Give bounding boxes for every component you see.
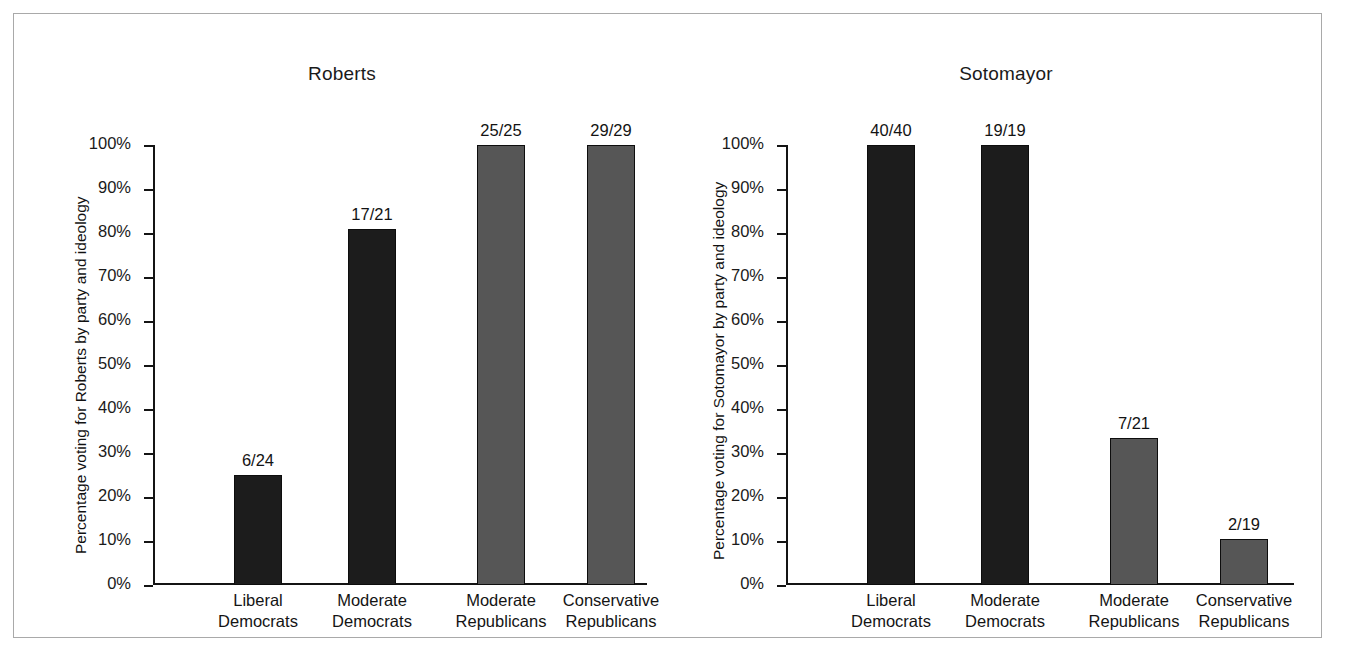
y-tick-40: 40% bbox=[777, 409, 786, 411]
bar-7-of-21[interactable] bbox=[1110, 438, 1158, 585]
x-category-line2: Republicans bbox=[437, 611, 565, 632]
x-category-line2: Republicans bbox=[1070, 611, 1198, 632]
y-tick-label: 30% bbox=[98, 442, 131, 461]
x-category-line1: Liberal bbox=[827, 590, 955, 611]
y-tick-label: 20% bbox=[731, 486, 764, 505]
bar-slot: 19/19 bbox=[931, 145, 1045, 585]
bar-value-label: 2/19 bbox=[1220, 515, 1268, 534]
figure-frame: Roberts Percentage voting for Roberts by… bbox=[13, 13, 1322, 638]
x-category-line1: Conservative bbox=[1180, 590, 1308, 611]
x-category-label: ModerateDemocrats bbox=[941, 590, 1069, 632]
bars-sotomayor: 40/4019/197/212/19 bbox=[788, 145, 1280, 585]
bar-slot: 25/25 bbox=[427, 145, 541, 585]
y-tick-10: 10% bbox=[144, 541, 153, 543]
x-category-line2: Democrats bbox=[194, 611, 322, 632]
y-tick-label: 50% bbox=[731, 354, 764, 373]
y-tick-label: 90% bbox=[98, 178, 131, 197]
x-category-line2: Republicans bbox=[1180, 611, 1308, 632]
y-tick-20: 20% bbox=[777, 497, 786, 499]
y-tick-100: 100% bbox=[777, 145, 786, 147]
y-tick-0: 0% bbox=[144, 585, 153, 587]
y-tick-label: 20% bbox=[98, 486, 131, 505]
x-category-label: ConservativeRepublicans bbox=[547, 590, 675, 632]
y-tick-20: 20% bbox=[144, 497, 153, 499]
x-category-line1: Moderate bbox=[437, 590, 565, 611]
x-category-line1: Conservative bbox=[547, 590, 675, 611]
y-tick-label: 10% bbox=[98, 530, 131, 549]
x-category-label: LiberalDemocrats bbox=[194, 590, 322, 632]
y-tick-10: 10% bbox=[777, 541, 786, 543]
y-tick-0: 0% bbox=[777, 585, 786, 587]
y-tick-label: 40% bbox=[731, 398, 764, 417]
x-category-line2: Democrats bbox=[308, 611, 436, 632]
bar-slot: 29/29 bbox=[537, 145, 651, 585]
y-tick-70: 70% bbox=[144, 277, 153, 279]
bar-value-label: 40/40 bbox=[867, 121, 915, 140]
bars-roberts: 6/2417/2125/2529/29 bbox=[155, 145, 647, 585]
x-category-line1: Moderate bbox=[941, 590, 1069, 611]
bar-2-of-19[interactable] bbox=[1220, 539, 1268, 585]
bar-slot: 7/21 bbox=[1060, 145, 1174, 585]
x-category-line2: Democrats bbox=[941, 611, 1069, 632]
bar-40-of-40[interactable] bbox=[867, 145, 915, 585]
chart-panel-sotomayor: Sotomayor Percentage voting for Sotomayo… bbox=[668, 14, 1322, 639]
bar-value-label: 29/29 bbox=[587, 121, 635, 140]
bar-19-of-19[interactable] bbox=[981, 145, 1029, 585]
bar-slot: 2/19 bbox=[1170, 145, 1284, 585]
chart-title-sotomayor: Sotomayor bbox=[746, 63, 1266, 85]
y-tick-80: 80% bbox=[144, 233, 153, 235]
bar-value-label: 25/25 bbox=[477, 121, 525, 140]
x-category-line1: Liberal bbox=[194, 590, 322, 611]
y-tick-label: 60% bbox=[98, 310, 131, 329]
y-tick-90: 90% bbox=[144, 189, 153, 191]
bar-17-of-21[interactable] bbox=[348, 229, 396, 585]
x-category-label: ModerateRepublicans bbox=[437, 590, 565, 632]
x-category-line1: Moderate bbox=[1070, 590, 1198, 611]
y-tick-70: 70% bbox=[777, 277, 786, 279]
y-tick-80: 80% bbox=[777, 233, 786, 235]
y-tick-30: 30% bbox=[777, 453, 786, 455]
bar-value-label: 19/19 bbox=[981, 121, 1029, 140]
y-tick-label: 30% bbox=[731, 442, 764, 461]
y-tick-30: 30% bbox=[144, 453, 153, 455]
y-tick-label: 100% bbox=[89, 134, 131, 153]
bar-value-label: 6/24 bbox=[234, 451, 282, 470]
y-tick-label: 0% bbox=[107, 574, 131, 593]
y-tick-label: 50% bbox=[98, 354, 131, 373]
bar-slot: 6/24 bbox=[184, 145, 298, 585]
y-axis-title-sotomayor: Percentage voting for Sotomayor by party… bbox=[710, 182, 728, 560]
y-tick-60: 60% bbox=[144, 321, 153, 323]
bar-25-of-25[interactable] bbox=[477, 145, 525, 585]
y-tick-label: 0% bbox=[740, 574, 764, 593]
y-tick-90: 90% bbox=[777, 189, 786, 191]
x-category-label: ConservativeRepublicans bbox=[1180, 590, 1308, 632]
y-tick-60: 60% bbox=[777, 321, 786, 323]
bar-slot: 40/40 bbox=[817, 145, 931, 585]
y-tick-label: 100% bbox=[722, 134, 764, 153]
x-category-line1: Moderate bbox=[308, 590, 436, 611]
y-tick-50: 50% bbox=[777, 365, 786, 367]
plot-area-sotomayor: 100%90%80%70%60%50%40%30%20%10%0% 40/401… bbox=[786, 132, 1286, 585]
y-tick-label: 80% bbox=[98, 222, 131, 241]
bar-6-of-24[interactable] bbox=[234, 475, 282, 585]
bar-29-of-29[interactable] bbox=[587, 145, 635, 585]
bar-value-label: 7/21 bbox=[1110, 414, 1158, 433]
x-category-label: LiberalDemocrats bbox=[827, 590, 955, 632]
y-tick-50: 50% bbox=[144, 365, 153, 367]
y-tick-100: 100% bbox=[144, 145, 153, 147]
y-tick-label: 70% bbox=[98, 266, 131, 285]
chart-title-roberts: Roberts bbox=[82, 63, 602, 85]
y-tick-label: 70% bbox=[731, 266, 764, 285]
bar-slot: 17/21 bbox=[298, 145, 412, 585]
x-category-label: ModerateRepublicans bbox=[1070, 590, 1198, 632]
y-tick-label: 80% bbox=[731, 222, 764, 241]
y-tick-label: 40% bbox=[98, 398, 131, 417]
plot-area-roberts: 100%90%80%70%60%50%40%30%20%10%0% 6/2417… bbox=[153, 132, 647, 585]
y-tick-label: 10% bbox=[731, 530, 764, 549]
x-category-line2: Republicans bbox=[547, 611, 675, 632]
bar-value-label: 17/21 bbox=[348, 205, 396, 224]
x-category-label: ModerateDemocrats bbox=[308, 590, 436, 632]
chart-panel-roberts: Roberts Percentage voting for Roberts by… bbox=[14, 14, 668, 639]
x-category-line2: Democrats bbox=[827, 611, 955, 632]
y-tick-label: 60% bbox=[731, 310, 764, 329]
